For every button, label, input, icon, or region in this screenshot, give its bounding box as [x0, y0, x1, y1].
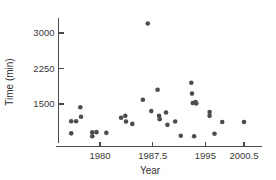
data-point — [79, 114, 84, 119]
data-point — [178, 133, 183, 138]
data-point — [157, 117, 162, 122]
data-point — [155, 88, 160, 93]
x-tick-label: 1995 — [195, 150, 216, 161]
data-point — [145, 21, 150, 26]
data-point — [104, 131, 109, 136]
data-point — [90, 134, 95, 139]
data-point — [119, 115, 124, 120]
data-point — [130, 122, 135, 127]
scatter-chart-figure: 150022503000 19801987.519952000.5 Year T… — [0, 0, 276, 180]
data-point — [242, 120, 247, 125]
x-axis: 19801987.519952000.5 — [56, 142, 262, 161]
data-point — [94, 130, 99, 135]
data-point — [220, 120, 225, 125]
data-point — [212, 132, 217, 137]
data-point — [194, 101, 199, 106]
x-tick-label: 1980 — [89, 150, 110, 161]
y-tick-label: 1500 — [33, 98, 54, 109]
data-point — [149, 109, 154, 114]
data-point — [165, 123, 170, 128]
data-point — [189, 80, 194, 85]
data-point — [124, 119, 129, 124]
data-point-group — [69, 21, 246, 138]
scatter-plot-canvas: 150022503000 19801987.519952000.5 Year T… — [0, 0, 276, 180]
y-tick-label: 3000 — [33, 27, 54, 38]
data-point — [78, 105, 83, 110]
x-axis-title: Year — [140, 165, 161, 176]
data-point — [190, 91, 195, 96]
data-point — [69, 119, 74, 124]
data-point — [69, 131, 74, 136]
y-axis: 150022503000 — [33, 18, 63, 143]
x-tick-label: 2000.5 — [229, 150, 258, 161]
y-axis-title: Time (min) — [4, 58, 15, 105]
data-point — [123, 114, 128, 119]
data-point — [192, 134, 197, 139]
y-tick-label: 2250 — [33, 63, 54, 74]
data-point — [164, 110, 169, 115]
x-tick-label: 1987.5 — [138, 150, 167, 161]
data-point — [173, 119, 178, 124]
data-point — [207, 114, 212, 119]
data-point — [74, 119, 79, 124]
data-point — [141, 97, 146, 102]
x-tick-group: 19801987.519952000.5 — [89, 142, 258, 161]
